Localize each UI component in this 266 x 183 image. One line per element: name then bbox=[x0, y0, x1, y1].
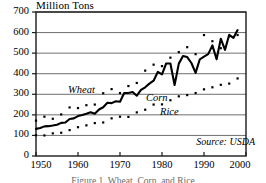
y-tick-label: 300 bbox=[1, 87, 29, 98]
x-tick-label: 1950 bbox=[24, 159, 58, 170]
x-tick-label: 1960 bbox=[61, 159, 95, 170]
x-tick-label: 1990 bbox=[187, 159, 221, 170]
plot-area bbox=[0, 0, 266, 183]
gridlines bbox=[36, 12, 246, 135]
series-label-corn: Corn bbox=[146, 92, 168, 103]
chart-container: Million Tons 7006005004003002001000 1950… bbox=[0, 0, 266, 183]
y-tick-label: 100 bbox=[1, 128, 29, 139]
y-tick-label: 400 bbox=[1, 67, 29, 78]
source-note: Source: USDA bbox=[196, 136, 255, 147]
y-tick-label: 500 bbox=[1, 46, 29, 57]
x-tick-label: 1970 bbox=[103, 159, 137, 170]
y-tick-label: 200 bbox=[1, 108, 29, 119]
series-label-rice: Rice bbox=[160, 106, 179, 117]
x-tick-label: 2000 bbox=[223, 159, 257, 170]
y-tick-label: 700 bbox=[1, 5, 29, 16]
axis-ticks bbox=[32, 12, 246, 156]
figure-caption: Figure 1. Wheat, Corn, and Rice bbox=[0, 176, 266, 183]
series-label-wheat: Wheat bbox=[68, 84, 95, 95]
y-tick-label: 600 bbox=[1, 26, 29, 37]
x-tick-label: 1980 bbox=[145, 159, 179, 170]
data-series bbox=[35, 30, 239, 136]
